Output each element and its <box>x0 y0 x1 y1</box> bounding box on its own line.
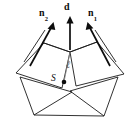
label-normal-n1-symbol: n <box>88 7 94 18</box>
vector-n2-arrowhead <box>48 22 56 30</box>
vector-d <box>66 16 73 50</box>
label-normal-n2: n2 <box>39 8 48 21</box>
diagram-canvas <box>0 0 130 122</box>
label-direction-d: d <box>64 2 70 12</box>
point-s-dot <box>62 80 67 85</box>
lower-left-inner-edge <box>34 115 104 116</box>
label-point-s: S <box>51 74 56 84</box>
label-normal-n1: n1 <box>88 8 97 21</box>
label-normal-n2-symbol: n <box>39 7 45 18</box>
label-direction-d-symbol: d <box>64 1 70 12</box>
vector-n1-arrowhead <box>86 22 94 30</box>
label-normal-n2-subscript: 2 <box>45 15 48 22</box>
label-edge-ell: ℓ <box>66 60 70 70</box>
geometry-diagram: n2 d n1 ℓ S <box>0 0 130 122</box>
lower-faces-group <box>20 77 118 116</box>
label-normal-n1-subscript: 1 <box>94 15 97 22</box>
vector-d-arrowhead <box>66 16 73 23</box>
